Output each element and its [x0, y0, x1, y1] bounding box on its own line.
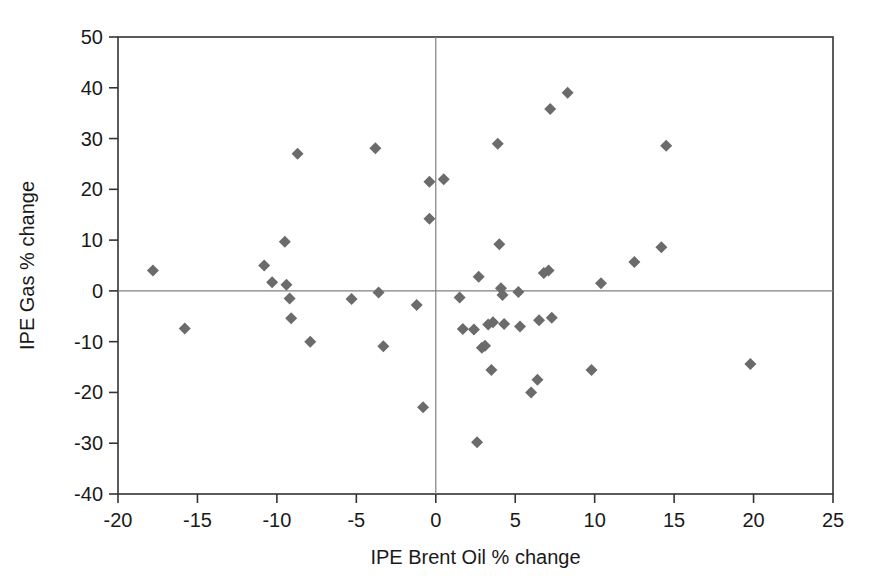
y-axis-tick-label: -40 — [74, 483, 103, 505]
y-axis-tick-label: -20 — [74, 381, 103, 403]
x-axis-tick-label: 0 — [430, 509, 441, 531]
x-axis-tick-label: 10 — [584, 509, 606, 531]
y-axis-tick-label: -30 — [74, 432, 103, 454]
x-axis-title: IPE Brent Oil % change — [370, 546, 580, 568]
y-axis-tick-label: -10 — [74, 331, 103, 353]
scatter-chart-figure: -40-30-20-1001020304050-20-15-10-5051015… — [0, 0, 884, 583]
y-axis-tick-label: 0 — [92, 280, 103, 302]
x-axis-tick-label: 20 — [742, 509, 764, 531]
y-axis-title: IPE Gas % change — [16, 181, 38, 350]
y-axis-tick-label: 50 — [81, 26, 103, 48]
x-axis-tick-label: 15 — [663, 509, 685, 531]
x-axis-tick-label: -5 — [347, 509, 365, 531]
y-axis-tick-label: 40 — [81, 77, 103, 99]
y-axis-tick-label: 10 — [81, 229, 103, 251]
x-axis-tick-label: -10 — [262, 509, 291, 531]
y-axis-tick-label: 30 — [81, 128, 103, 150]
x-axis-tick-label: -20 — [104, 509, 133, 531]
plot-canvas: -40-30-20-1001020304050-20-15-10-5051015… — [0, 0, 884, 583]
x-axis-tick-label: -15 — [183, 509, 212, 531]
y-axis-tick-label: 20 — [81, 178, 103, 200]
plot-area-background — [118, 37, 833, 494]
x-axis-tick-label: 25 — [822, 509, 844, 531]
x-axis-tick-label: 5 — [510, 509, 521, 531]
